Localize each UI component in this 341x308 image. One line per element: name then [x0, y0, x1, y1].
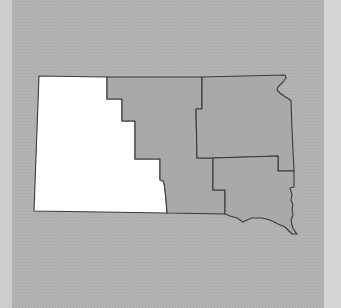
map-frame [0, 0, 341, 308]
region-map [0, 0, 341, 308]
